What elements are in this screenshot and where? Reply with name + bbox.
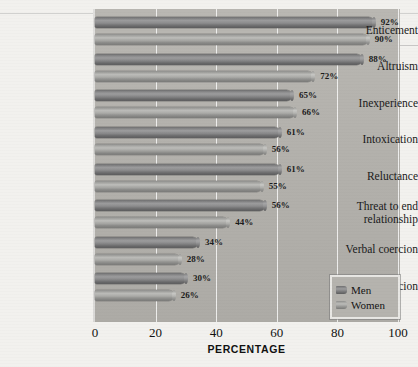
bar-men-7 (95, 273, 186, 284)
x-tick-label-40: 40 (210, 325, 223, 341)
bar-value-label: 44% (235, 217, 253, 228)
x-tick-label-100: 100 (388, 325, 408, 341)
bar-value-label: 26% (181, 290, 199, 301)
x-tick-label-20: 20 (149, 325, 162, 341)
category-label-line: Altruism (330, 60, 418, 73)
bar-women-5 (95, 217, 228, 228)
category-label-line: Enticement (330, 24, 418, 37)
bar-men-4 (95, 164, 280, 175)
category-label-5: Threat to endrelationship (330, 200, 418, 225)
legend-label: Men (351, 284, 371, 296)
bar-men-6 (95, 237, 198, 248)
x-axis-title: PERCENTAGE (93, 343, 400, 355)
bar-women-1 (95, 71, 313, 82)
legend-item-women[interactable]: Women (336, 297, 385, 312)
category-label-line: Intoxication (330, 133, 418, 146)
bar-value-label: 56% (272, 144, 290, 155)
legend-label: Women (351, 299, 385, 311)
chart-container: 92%90%88%72%65%66%61%56%61%55%56%44%34%2… (0, 0, 418, 367)
category-label-line: Reluctance (330, 170, 418, 183)
bar-value-label: 61% (287, 127, 305, 138)
bar-women-6 (95, 254, 180, 265)
x-axis-ticks: 020406080100 (93, 325, 400, 341)
category-label-1: Altruism (330, 60, 418, 73)
bar-value-label: 56% (272, 200, 290, 211)
category-label-line: Threat to end (330, 200, 418, 213)
x-tick-label-80: 80 (331, 325, 344, 341)
category-label-0: Enticement (330, 24, 418, 37)
bar-men-1 (95, 54, 362, 65)
bar-value-label: 66% (302, 107, 320, 118)
category-label-6: Verbal coercion (330, 243, 418, 256)
category-label-line: relationship (330, 213, 418, 226)
bar-value-label: 61% (287, 164, 305, 175)
bar-women-3 (95, 144, 265, 155)
chart-legend: MenWomen (330, 275, 400, 319)
legend-swatch-icon (336, 301, 347, 309)
category-label-line: Inexperience (330, 97, 418, 110)
legend-swatch-icon (336, 286, 347, 294)
bar-women-2 (95, 107, 295, 118)
bar-value-label: 65% (299, 90, 317, 101)
bar-value-label: 55% (269, 181, 287, 192)
bar-value-label: 28% (187, 254, 205, 265)
bar-women-0 (95, 34, 368, 45)
bar-men-5 (95, 200, 265, 211)
bar-women-7 (95, 290, 174, 301)
category-label-line: Verbal coercion (330, 243, 418, 256)
x-tick-label-0: 0 (92, 325, 99, 341)
bar-value-label: 30% (193, 273, 211, 284)
bar-men-2 (95, 90, 292, 101)
x-tick-label-60: 60 (270, 325, 283, 341)
category-label-2: Inexperience (330, 97, 418, 110)
bar-men-3 (95, 127, 280, 138)
legend-item-men[interactable]: Men (336, 282, 371, 297)
category-label-3: Intoxication (330, 133, 418, 146)
bar-value-label: 34% (205, 237, 223, 248)
category-label-4: Reluctance (330, 170, 418, 183)
bar-women-4 (95, 181, 262, 192)
